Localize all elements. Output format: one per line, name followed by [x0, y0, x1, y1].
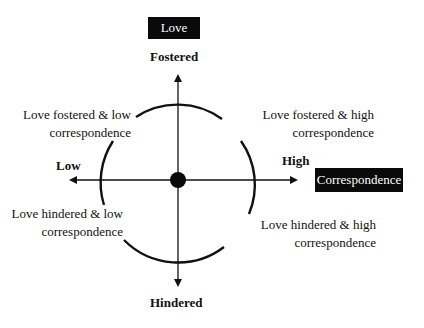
- quadrant-top-right-line2: correspondence: [240, 124, 374, 142]
- quadrant-bottom-left-line2: correspondence: [0, 223, 123, 241]
- arc-left: [101, 141, 113, 205]
- quadrant-bottom-right-label: Love hindered & high correspondence: [240, 216, 376, 252]
- arc-right: [241, 141, 255, 214]
- love-axis-title: Love: [148, 17, 200, 39]
- hindered-label: Hindered: [150, 295, 203, 311]
- quadrant-bottom-right-line2: correspondence: [240, 234, 376, 252]
- low-label: Low: [56, 158, 81, 174]
- high-label: High: [282, 153, 309, 169]
- arc-bottom: [124, 240, 224, 263]
- quadrant-top-right-label: Love fostered & high correspondence: [240, 106, 374, 142]
- correspondence-axis-title: Correspondence: [315, 168, 403, 192]
- fostered-label: Fostered: [150, 49, 198, 65]
- quadrant-top-right-line1: Love fostered & high: [240, 106, 374, 124]
- quadrant-top-left-label: Love fostered & low correspondence: [0, 106, 131, 142]
- quadrant-bottom-right-line1: Love hindered & high: [240, 216, 376, 234]
- quadrant-top-left-line2: correspondence: [0, 124, 131, 142]
- quadrant-top-left-line1: Love fostered & low: [0, 106, 131, 124]
- quadrant-bottom-left-line1: Love hindered & low: [0, 205, 123, 223]
- quadrant-bottom-left-label: Love hindered & low correspondence: [0, 205, 123, 241]
- center-dot: [170, 172, 186, 188]
- arc-top: [136, 105, 222, 119]
